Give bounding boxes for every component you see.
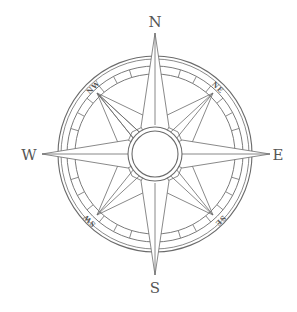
label-southeast: SE — [214, 214, 228, 228]
compass-rose: N E S W NW NE SW SE — [0, 0, 297, 312]
label-west: W — [21, 146, 37, 164]
label-northwest: NW — [85, 79, 102, 96]
label-northeast: NE — [210, 80, 225, 95]
label-north: N — [148, 13, 161, 31]
label-east: E — [273, 146, 284, 164]
label-southwest: SW — [81, 213, 97, 229]
label-south: S — [150, 279, 160, 297]
center-hub — [128, 127, 182, 181]
